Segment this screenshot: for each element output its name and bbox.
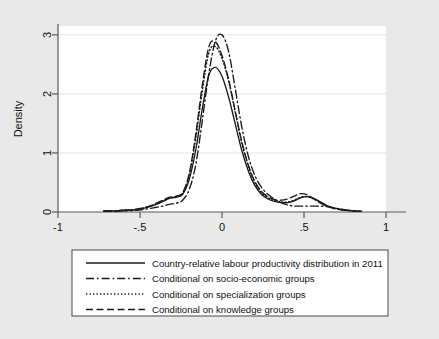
x-tick-label: -.5 [134,221,147,233]
legend: Country-relative labour productivity dis… [72,250,388,316]
y-tick-label: 1 [41,150,53,156]
legend-label-2: Conditional on socio-economic groups [152,273,315,284]
y-tick-label: 2 [41,91,53,97]
legend-label-1: Country-relative labour productivity dis… [152,258,383,269]
y-axis-label: Density [12,100,24,137]
legend-label-4: Conditional on knowledge groups [152,304,294,315]
y-tick-label: 0 [41,209,53,215]
x-tick-label: .5 [299,221,308,233]
x-tick-label: -1 [53,221,63,233]
density-plot-figure: -1-.50.510123 Density Country-relative l… [0,0,439,339]
chart-svg: -1-.50.510123 Density Country-relative l… [0,0,439,339]
x-tick-label: 0 [219,221,225,233]
x-tick-label: 1 [383,221,389,233]
y-tick-label: 3 [41,32,53,38]
legend-label-3: Conditional on specialization groups [152,289,306,300]
